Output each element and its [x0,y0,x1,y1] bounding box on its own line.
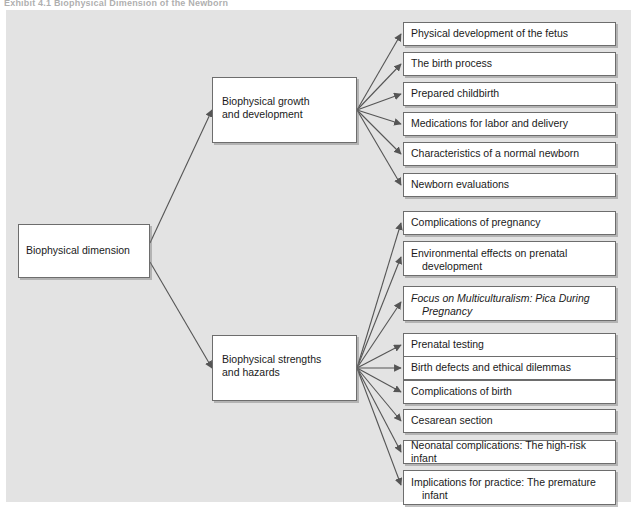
node-label: Biophysical dimension [26,244,130,257]
node-label-line2: and hazards [222,366,349,379]
node-label: Physical development of the fetus [411,27,568,40]
node-label: Neonatal complications: The high-risk in… [411,439,608,466]
node-leaf: Medications for labor and delivery [403,112,616,136]
node-root: Biophysical dimension [18,224,150,278]
node-leaf: Complications of pregnancy [403,211,616,235]
node-label-line2: Pregnancy [411,305,608,318]
exhibit-caption: Exhibit 4.1 Biophysical Dimension of the… [4,0,228,8]
node-label: Prenatal testing [411,338,484,351]
node-leaf: Prepared childbirth [403,82,616,106]
node-leaf: Newborn evaluations [403,173,616,197]
node-leaf: The birth process [403,52,616,76]
diagram-canvas: Exhibit 4.1 Biophysical Dimension of the… [0,0,643,520]
node-label-line1: Implications for practice: The premature [411,476,608,489]
node-leaf: Prenatal testing [403,333,616,357]
node-label: Characteristics of a normal newborn [411,147,579,160]
node-label: Medications for labor and delivery [411,117,568,130]
node-leaf: Implications for practice: The premature… [403,470,616,505]
node-leaf: Focus on Multiculturalism: Pica During P… [403,286,616,321]
node-leaf: Cesarean section [403,409,616,433]
node-leaf: Characteristics of a normal newborn [403,142,616,166]
node-label: The birth process [411,57,492,70]
node-label: Birth defects and ethical dilemmas [411,361,571,374]
node-leaf: Complications of birth [403,380,616,404]
node-leaf: Birth defects and ethical dilemmas [403,356,616,380]
node-label-line1: Biophysical growth [222,95,349,108]
node-label-line1: Focus on Multiculturalism: Pica During [411,292,608,305]
node-leaf: Neonatal complications: The high-risk in… [403,440,616,464]
node-branch-strengths: Biophysical strengths and hazards [212,335,357,401]
node-label-line2: and development [222,108,349,121]
node-label: Cesarean section [411,414,493,427]
node-label: Complications of birth [411,385,512,398]
node-label: Prepared childbirth [411,87,499,100]
node-label: Complications of pregnancy [411,216,541,229]
node-label-line2: development [411,260,608,273]
node-leaf: Physical development of the fetus [403,22,616,46]
node-branch-growth: Biophysical growth and development [212,77,357,143]
node-label-line2: infant [411,489,608,502]
node-leaf: Environmental effects on prenatal develo… [403,241,616,276]
node-label-line1: Biophysical strengths [222,353,349,366]
node-label-line1: Environmental effects on prenatal [411,247,608,260]
node-label: Newborn evaluations [411,178,509,191]
